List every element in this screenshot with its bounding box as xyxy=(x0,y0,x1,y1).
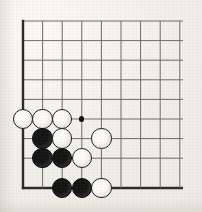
black-stone[interactable] xyxy=(72,178,92,198)
white-stone[interactable] xyxy=(32,109,52,129)
white-stone[interactable] xyxy=(52,128,72,148)
white-stone[interactable] xyxy=(91,178,111,198)
go-board-diagram xyxy=(0,0,202,212)
hoshi-star-point-marker xyxy=(79,116,84,121)
black-stone[interactable] xyxy=(32,148,52,168)
black-stone[interactable] xyxy=(32,128,52,148)
white-stone[interactable] xyxy=(91,128,111,148)
